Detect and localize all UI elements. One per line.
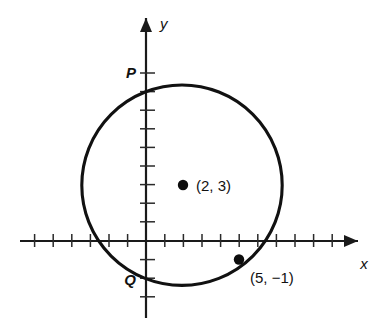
y-axis-group [140,18,155,318]
circle-point-label: (5, −1) [250,269,294,286]
x-axis-arrow-icon [344,235,358,247]
y-axis-ticks [140,73,155,297]
y-axis-label: y [159,15,169,32]
x-axis-group [20,234,358,247]
x-axis-label: x [359,255,368,272]
circle-coordinate-figure: y x P Q (2, 3) (5, −1) [0,0,383,329]
point-p-label: P [126,64,137,81]
circle-point-marker [234,254,244,264]
y-axis-arrow-icon [140,18,152,32]
center-point-label: (2, 3) [196,177,231,194]
center-point-marker [178,180,188,190]
point-q-label: Q [124,271,136,288]
figure-canvas: y x P Q (2, 3) (5, −1) [0,0,383,329]
